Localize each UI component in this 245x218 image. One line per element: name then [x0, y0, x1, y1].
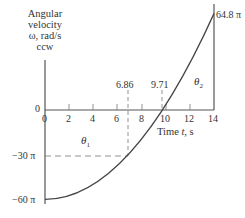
x-tick-label: 2 — [66, 114, 71, 124]
y-tick-label-neg60pi: −60 π — [12, 195, 35, 205]
y-axis-title-line: Angular — [12, 8, 78, 19]
annotation-6-86: 6.86 — [116, 80, 134, 90]
y-axis-title: Angular velocity ω, rad/s ccw — [12, 8, 78, 52]
theta2-subscript: 2 — [199, 82, 203, 90]
x-tick-label: 6 — [114, 114, 119, 124]
y-tick-label-neg30pi: −30 π — [12, 151, 35, 161]
annotation-9-71: 9.71 — [151, 80, 169, 90]
x-axis-title: Time t, s — [157, 127, 194, 138]
x-tick-label: 8 — [139, 114, 144, 124]
x-tick-label: 0 — [42, 114, 47, 124]
x-ticks — [69, 104, 190, 110]
y-axis-title-line: ω, rad/s — [12, 30, 78, 41]
y-axis-title-line: ccw — [12, 41, 78, 52]
x-axis-title-suffix: , s — [184, 126, 193, 137]
theta2-label: θ2 — [194, 76, 203, 90]
annotation-end-value: 64.8 π — [216, 10, 241, 20]
x-axis-title-prefix: Time — [157, 126, 181, 137]
x-tick-label: 10 — [160, 114, 170, 124]
theta1-subscript: 1 — [86, 141, 90, 149]
theta1-label: θ1 — [81, 135, 90, 149]
y-tick-label-0: 0 — [35, 104, 40, 114]
x-tick-label: 14 — [208, 114, 218, 124]
y-axis-title-line: velocity — [12, 19, 78, 30]
x-tick-label: 4 — [90, 114, 95, 124]
x-tick-label: 12 — [184, 114, 194, 124]
